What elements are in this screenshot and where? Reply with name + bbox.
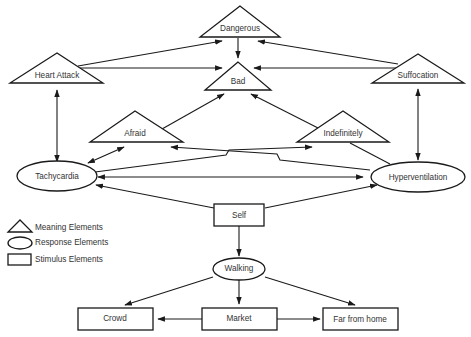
edge-self-tachycardia [96,185,214,208]
legend-label: Stimulus Elements [35,255,103,264]
node-label: Self [232,211,247,220]
ellipse-legend-icon [8,237,32,249]
node-tachycardia[interactable]: Tachycardia [17,161,97,191]
diagram-canvas: Dangerous Heart Attack Bad Suffocation A… [0,0,471,337]
node-label: Hyperventilation [389,173,448,182]
legend-label: Meaning Elements [35,223,103,232]
edge-heartattack-dangerous [78,41,222,66]
node-label: Crowd [103,314,127,323]
legend-label: Response Elements [35,238,108,247]
edge-walking-farfromhome [265,277,355,305]
legend-item-stimulus: Stimulus Elements [8,254,103,265]
edge-afraid-bad [162,94,224,129]
edge-suffocation-dangerous [258,41,398,64]
node-bad[interactable]: Bad [205,62,271,90]
edge-self-hyperventilation [265,185,377,208]
edge-indefinitely-bad [251,94,320,129]
node-crowd[interactable]: Crowd [78,308,153,330]
node-label: Suffocation [398,71,439,80]
node-label: Tachycardia [35,172,79,181]
edge-walking-crowd [125,277,213,305]
node-hyperventilation[interactable]: Hyperventilation [371,162,465,192]
node-label: Bad [231,77,246,86]
node-far-from-home[interactable]: Far from home [323,308,398,330]
node-market[interactable]: Market [202,308,277,330]
node-label: Indefinitely [323,129,363,138]
legend-item-meaning: Meaning Elements [8,220,103,232]
rect-legend-icon [8,254,31,265]
triangle-legend-icon [8,220,32,232]
node-label: Dangerous [220,24,260,33]
node-dangerous[interactable]: Dangerous [200,6,280,37]
node-indefinitely[interactable]: Indefinitely [297,111,389,142]
node-self[interactable]: Self [214,204,264,226]
legend-item-response: Response Elements [8,237,108,249]
node-label: Far from home [333,315,387,324]
node-label: Afraid [124,129,146,138]
node-label: Walking [225,264,254,273]
node-label: Market [226,314,252,323]
node-afraid[interactable]: Afraid [90,111,183,142]
node-label: Heart Attack [35,71,81,80]
edge-tachycardia-afraid [88,147,124,163]
edge-indefinitely-hyperventilation [350,143,390,164]
legend: Meaning Elements Response Elements Stimu… [8,220,108,265]
node-walking[interactable]: Walking [213,258,265,280]
